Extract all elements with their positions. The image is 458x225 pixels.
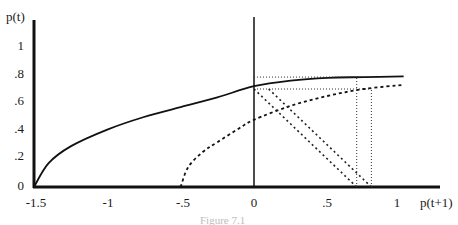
- y-tick-1: 1: [4, 39, 24, 52]
- chart-canvas: [0, 0, 458, 225]
- figure-caption: Figure 7.1: [200, 214, 245, 225]
- dotted-diagonal-0: [254, 89, 357, 187]
- x-tick-0.5: .5: [312, 196, 342, 209]
- y-tick-0.6: .6: [4, 94, 24, 107]
- y-tick-0: 0: [4, 179, 24, 192]
- x-tick-neg1.5: -1.5: [21, 196, 51, 209]
- x-tick-1: 1: [382, 196, 412, 209]
- dotted-diagonal-1: [269, 89, 372, 187]
- plot-area: [33, 17, 440, 188]
- y-axis-label: p(t): [6, 10, 25, 23]
- y-tick-0.8: .8: [4, 67, 24, 80]
- x-tick-neg0.5: -.5: [168, 196, 198, 209]
- solid-curve: [34, 76, 404, 187]
- y-tick-0.4: .4: [4, 122, 24, 135]
- dashed-curve: [181, 85, 404, 187]
- x-tick-0: 0: [239, 196, 269, 209]
- y-tick-0.2: .2: [4, 149, 24, 162]
- x-axis-label: p(t+1): [420, 196, 453, 209]
- x-tick-neg1: -1: [93, 196, 123, 209]
